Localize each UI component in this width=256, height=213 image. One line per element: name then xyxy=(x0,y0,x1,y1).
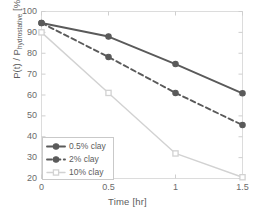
data-point-marker xyxy=(240,91,245,96)
legend-marker xyxy=(53,157,58,162)
data-point-marker xyxy=(106,34,111,39)
data-point-marker xyxy=(106,90,111,95)
x-tick-label: 0.5 xyxy=(94,183,124,192)
chart-figure: 1009080706050403020 00.511.5 Time [hr] P… xyxy=(0,0,255,213)
data-point-marker xyxy=(173,61,178,66)
legend-label: 10% clay xyxy=(69,168,104,177)
data-point-marker xyxy=(240,122,245,127)
legend-sample-1 xyxy=(46,141,66,152)
legend-item: 2% clay xyxy=(43,153,113,166)
x-tick-label: 1.5 xyxy=(228,183,256,192)
y-tick-label: 30 xyxy=(12,153,37,162)
x-tick-label: 1 xyxy=(161,183,191,192)
data-point-marker xyxy=(173,90,178,95)
y-axis-label-main: P(t) / P xyxy=(11,49,22,79)
legend-item: 0.5% clay xyxy=(43,140,113,153)
legend-sample-3 xyxy=(46,167,66,178)
legend-label: 2% clay xyxy=(69,155,99,164)
y-axis-label: P(t) / Phydrostative [%] xyxy=(11,0,27,123)
data-point-marker xyxy=(39,20,44,25)
legend-label: 0.5% clay xyxy=(69,142,106,151)
data-point-marker xyxy=(106,54,111,59)
y-axis-label-subscript: hydrostative xyxy=(16,14,23,50)
chart-legend: 0.5% clay2% clay10% clay xyxy=(42,137,114,180)
series-line xyxy=(42,23,243,125)
series-2 xyxy=(39,20,245,127)
legend-marker xyxy=(53,170,58,175)
legend-sample-2 xyxy=(46,154,66,165)
x-axis-label: Time [hr] xyxy=(0,196,255,207)
data-point-marker xyxy=(240,175,245,180)
y-axis-label-unit: [%] xyxy=(11,0,22,14)
data-point-marker xyxy=(173,151,178,156)
x-tick-label: 0 xyxy=(27,183,57,192)
legend-item: 10% clay xyxy=(43,166,113,179)
legend-marker xyxy=(53,144,58,149)
y-tick-label: 40 xyxy=(12,132,37,141)
series-line xyxy=(42,23,243,93)
data-point-marker xyxy=(39,30,44,35)
